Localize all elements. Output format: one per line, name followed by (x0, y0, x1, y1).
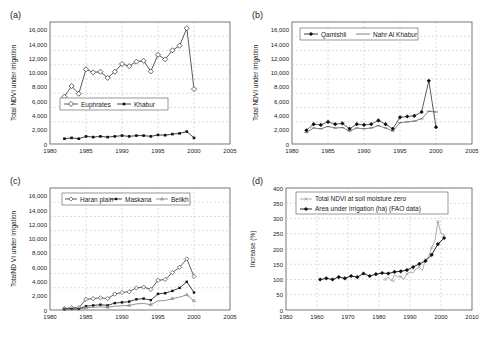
panel-b-legend-qamishli: Qamishli (321, 31, 346, 39)
panel-c-ytick-8: 16,000 (29, 193, 48, 199)
panel-b-ylabel: Total NDVI under irrigation (252, 45, 260, 122)
panel-b-xtick-4: 2000 (429, 148, 443, 154)
panel-a-ytick-3: 6,000 (32, 99, 48, 105)
panel-a-xtick-2: 1990 (115, 148, 129, 154)
panel-c-xtick-1: 1985 (79, 314, 93, 320)
panel-a-ylabel: Total NDVI under irrigation (10, 45, 18, 122)
panel-b-legend-nahr: Nahr Al Khabur (373, 31, 418, 38)
figure-container: (a) 0 (0, 0, 490, 340)
panel-a-xtick-3: 1995 (151, 148, 165, 154)
panel-c-chart: (c) 0 2,000 (4, 172, 244, 334)
panel-d-ytick-2: 100 (273, 277, 284, 283)
panel-c-legend-maskana: Maskana (125, 196, 152, 203)
panel-a-label: (a) (10, 10, 21, 20)
panel-c-xtick-4: 2000 (187, 314, 201, 320)
panel-d-label: (d) (252, 176, 263, 186)
panel-a-legend-euphrates: Euphrates (81, 101, 111, 109)
panel-a-xtick-1: 1985 (79, 148, 93, 154)
panel-c-label: (c) (10, 176, 21, 186)
panel-d-legend: Total NDVI at soil moisture zero Area un… (296, 192, 448, 214)
panel-a-xtick-4: 2000 (187, 148, 201, 154)
panel-b-xtick-2: 1990 (357, 148, 371, 154)
panel-c-xtick-2: 1990 (115, 314, 129, 320)
panel-c-legend-belikh: Belikh (171, 196, 189, 203)
panel-d-legend-fao: Area under irrigation (ha) (FAO data) (315, 205, 421, 213)
panel-c-ytick-1: 2,000 (32, 293, 48, 299)
panel-a-legend: Euphrates Khabur (60, 98, 168, 110)
panel-a-ytick-7: 14,000 (29, 42, 48, 48)
panel-d-xtick-0: 1950 (279, 314, 293, 320)
panel-c-xtick-5: 2005 (223, 314, 237, 320)
panel-d-xtick-5: 2000 (434, 314, 448, 320)
panel-d-ytick-6: 300 (273, 216, 284, 222)
panel-a-chart: (a) 0 (4, 6, 244, 166)
panel-a-series-euphrates-markers (62, 26, 197, 100)
panel-a-ytick-0: 0 (44, 142, 48, 148)
panel-a-ytick-8: 16,000 (29, 27, 48, 33)
panel-b-legend: Qamishli Nahr Al Khabur (300, 28, 418, 40)
panel-c-xtick-3: 1995 (151, 314, 165, 320)
panel-a-legend-khabur: Khabur (134, 101, 156, 108)
panel-b: (b) 0 2,000 (246, 6, 486, 166)
panel-a: (a) 0 (4, 6, 244, 166)
panel-b-ytick-6: 12,000 (271, 56, 290, 62)
panel-a-ytick-1: 2,000 (32, 127, 48, 133)
panel-c-ytick-6: 12,000 (29, 222, 48, 228)
panel-c-series-maskana-markers (63, 281, 195, 311)
panel-b-label: (b) (252, 10, 263, 20)
panel-a-xtick-5: 2005 (223, 148, 237, 154)
panel-d-ytick-5: 250 (273, 231, 284, 237)
panel-b-ytick-3: 6,000 (274, 99, 290, 105)
panel-a-ytick-4: 8,000 (32, 84, 48, 90)
panel-d-ytick-0: 0 (280, 308, 284, 314)
panel-c-plot: 0 2,000 4,000 6,000 8,000 10,000 12,000 … (10, 188, 237, 320)
panel-c-ytick-2: 4,000 (32, 279, 48, 285)
panel-b-ytick-5: 10,000 (271, 70, 290, 76)
panel-d-xtick-1: 1960 (310, 314, 324, 320)
panel-b-xtick-5: 2005 (465, 148, 479, 154)
panel-d-series-ndvi-markers (384, 220, 446, 282)
panel-b-chart: (b) 0 2,000 (246, 6, 486, 166)
panel-c-legend: Haran plain Maskana Belikh (62, 193, 190, 205)
panel-a-ytick-2: 4,000 (32, 113, 48, 119)
panel-d-ytick-7: 350 (273, 201, 284, 207)
panel-a-plot: 0 2,000 4,000 6,000 8,000 10,000 12,000 … (10, 22, 237, 154)
panel-d-ylabel: Increase (%) (249, 231, 257, 268)
panel-d-ytick-1: 50 (276, 292, 283, 298)
panel-b-series-qamishli-markers (304, 79, 438, 133)
panel-b-ytick-8: 16,000 (271, 27, 290, 33)
panel-a-ytick-5: 10,000 (29, 70, 48, 76)
panel-a-series-khabur-markers (63, 130, 195, 140)
panel-b-ytick-1: 2,000 (274, 127, 290, 133)
panel-b-ytick-7: 14,000 (271, 42, 290, 48)
panel-d-ytick-4: 200 (273, 247, 284, 253)
panel-d-xtick-3: 1980 (372, 314, 386, 320)
panel-d-ytick-8: 400 (273, 186, 284, 192)
panel-b-ytick-2: 4,000 (274, 113, 290, 119)
panel-b-ytick-0: 0 (286, 142, 290, 148)
panel-b-xtick-1: 1985 (321, 148, 335, 154)
panel-b-ytick-4: 8,000 (274, 84, 290, 90)
panel-c-ytick-3: 6,000 (32, 265, 48, 271)
panel-d: (d) 0 (246, 172, 486, 334)
panel-b-xtick-0: 1980 (285, 148, 299, 154)
panel-d-xtick-6: 2010 (465, 314, 479, 320)
panel-a-ytick-6: 12,000 (29, 56, 48, 62)
panel-b-xtick-3: 1995 (393, 148, 407, 154)
panel-c-legend-haran: Haran plain (80, 196, 114, 204)
panel-b-plot: 0 2,000 4,000 6,000 8,000 10,000 12,000 … (252, 22, 479, 154)
panel-c: (c) 0 2,000 (4, 172, 244, 334)
panel-c-ylabel: TotalND VI under irrigation (10, 211, 18, 288)
panel-d-chart: (d) 0 (246, 172, 486, 334)
panel-d-xtick-4: 1990 (403, 314, 417, 320)
panel-c-ytick-7: 14,000 (29, 208, 48, 214)
panel-d-plot: 0 50 100 150 200 250 300 350 400 1950 19… (249, 186, 479, 321)
panel-c-ytick-5: 10,000 (29, 236, 48, 242)
panel-c-ytick-0: 0 (44, 308, 48, 314)
panel-d-legend-ndvi: Total NDVI at soil moisture zero (315, 195, 406, 202)
panel-c-ytick-4: 8,000 (32, 250, 48, 256)
panel-d-ytick-3: 150 (273, 262, 284, 268)
panel-a-xtick-0: 1980 (43, 148, 57, 154)
panel-c-xtick-0: 1980 (43, 314, 57, 320)
panel-d-xtick-2: 1970 (341, 314, 355, 320)
